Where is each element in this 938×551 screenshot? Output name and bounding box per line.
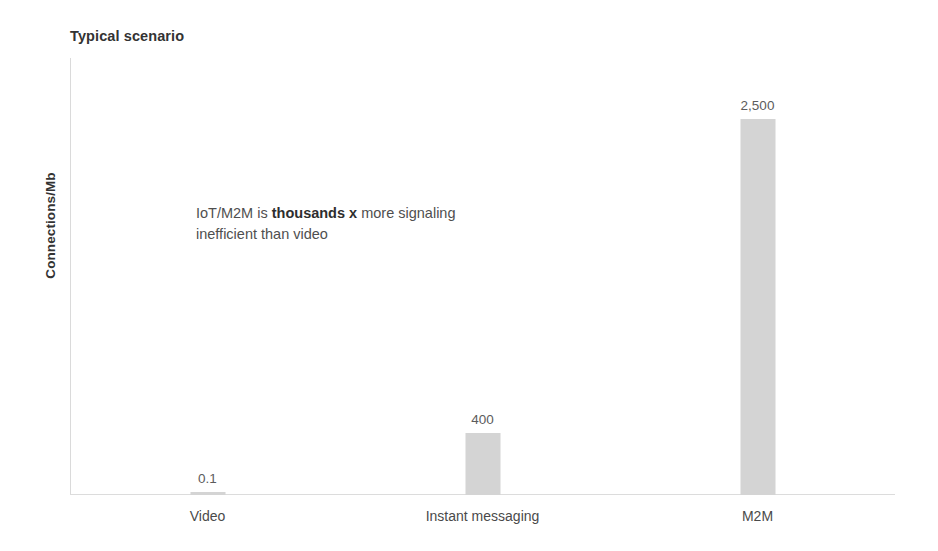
y-axis-title: Connections/Mb: [43, 146, 58, 306]
annotation-text-emphasis: thousands x: [272, 205, 357, 221]
bar-group-video: 0.1: [70, 58, 345, 495]
chart-title: Typical scenario: [70, 28, 184, 44]
chart-annotation: IoT/M2M is thousands x more signaling in…: [196, 203, 486, 245]
bar-value-label: 2,500: [741, 98, 775, 113]
x-axis-category-instant-messaging: Instant messaging: [345, 508, 620, 524]
x-axis-category-m2m: M2M: [620, 508, 895, 524]
bar-chart: Typical scenario Connections/Mb 0.1 400 …: [0, 0, 938, 551]
bar-m2m[interactable]: [740, 119, 775, 495]
bar-group-m2m: 2,500: [620, 58, 895, 495]
bar-value-label: 0.1: [198, 471, 217, 486]
bar-value-label: 400: [471, 412, 494, 427]
x-axis-category-video: Video: [70, 508, 345, 524]
bar-group-instant-messaging: 400: [345, 58, 620, 495]
plot-area: 0.1 400 2,500: [70, 58, 895, 495]
bar-video[interactable]: [190, 492, 225, 495]
annotation-text-suffix: more: [357, 205, 394, 221]
annotation-text-prefix: IoT/M2M is: [196, 205, 272, 221]
bar-instant-messaging[interactable]: [465, 433, 500, 495]
